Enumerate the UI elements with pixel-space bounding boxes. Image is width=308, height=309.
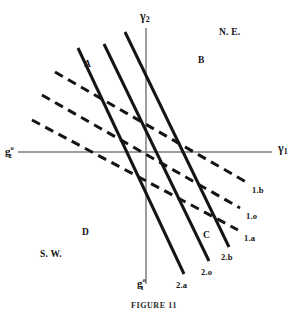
quadrant-label-south-west: S. W.: [40, 250, 62, 260]
plot-canvas: [0, 0, 308, 309]
quadrant-label-north-east: N. E.: [219, 28, 240, 38]
x-axis-label-subscript: 1: [284, 147, 288, 156]
curve-1a-line: [32, 120, 238, 230]
region-label-c: C: [203, 231, 210, 241]
axes-group: [18, 28, 272, 284]
curve-label-1b: 1.b: [252, 186, 264, 195]
y-origin-label-subscript: 2: [8, 152, 12, 160]
curve-label-2a: 2.a: [176, 281, 187, 290]
x-axis-label: γ1: [278, 142, 288, 156]
x-origin-label-superscript: o: [143, 276, 146, 283]
y-axis-label: γ2: [140, 10, 150, 24]
dashed-curve-family: [32, 72, 246, 230]
y-origin-label: go2: [5, 146, 17, 157]
x-origin-label: go1: [137, 278, 149, 289]
curve-label-2b: 2.b: [221, 253, 233, 262]
curve-label-1o: 1.o: [246, 212, 257, 221]
region-label-a: A: [84, 60, 91, 70]
figure-caption: FIGURE 11: [0, 301, 308, 309]
y-axis-label-subscript: 2: [146, 15, 150, 24]
curve-2a-line: [78, 48, 184, 274]
curve-label-1a: 1.a: [244, 234, 255, 243]
curve-1b-line: [55, 72, 246, 182]
figure-container: γ2 γ1 go2 go1 A B C D N. E. S. W. 1.a 1.…: [0, 0, 308, 309]
curve-2b-line: [125, 32, 229, 247]
x-origin-label-subscript: 1: [140, 284, 144, 292]
region-label-d: D: [82, 228, 89, 238]
region-label-b: B: [198, 56, 205, 66]
curve-label-2o: 2.o: [201, 268, 212, 277]
y-origin-label-superscript: o: [11, 144, 14, 151]
